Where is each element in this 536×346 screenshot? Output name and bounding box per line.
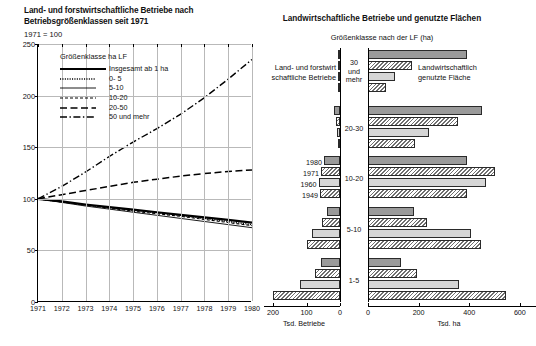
x-axis-tick-mark (181, 44, 182, 47)
x-axis-tick-label: 1977 (173, 304, 189, 313)
right-axis-tick-label: 600 (514, 308, 526, 317)
year-label-1980: 1980 (288, 157, 322, 166)
pyramid-plot-area: 30undmehr20-3010-2019801971196019495-101… (258, 44, 510, 314)
bar-right-1960 (368, 178, 486, 187)
year-label-1960: 1960 (288, 179, 317, 188)
bar-right-1960 (368, 128, 429, 137)
bar-left-1960 (319, 178, 340, 187)
bar-right-1960 (368, 280, 459, 289)
bar-left-1980 (321, 258, 340, 267)
x-axis-tick-label: 1979 (220, 304, 236, 313)
gridline-vertical (228, 44, 229, 301)
left-chart-title: Land- und forstwirtschaftliche Betriebe … (24, 6, 250, 27)
right-axis-tick-mark (419, 303, 420, 306)
legend-key-long-dash-icon (60, 103, 106, 112)
pyramid-group-10-20: 10-201980197119601949 (258, 156, 510, 200)
x-axis-tick-mark (38, 44, 39, 47)
line-chart-legend: Größenklasse ha LF Insgesamt ab 1 ha0- 5… (60, 52, 180, 122)
pyramid-category-label: 30undmehr (345, 59, 363, 85)
right-axis-tick-mark (469, 303, 470, 306)
left-axis-tick-mark (340, 303, 341, 306)
y-axis-tick-mark (35, 147, 38, 148)
bar-right-1980 (368, 106, 482, 115)
bar-right-1960 (368, 72, 395, 81)
legend-label: 50 und mehr (109, 112, 149, 121)
bar-left-1971 (315, 269, 340, 278)
y-axis-tick-label: 100 (23, 194, 35, 203)
legend-item-1: Insgesamt ab 1 ha (60, 64, 180, 74)
bar-right-1971 (368, 61, 412, 70)
pyramid-category-label: 20-30 (344, 124, 364, 133)
x-axis-tick-mark (109, 44, 110, 47)
right-axis-tick-label: 400 (463, 308, 475, 317)
gridline-vertical (252, 44, 253, 301)
bar-right-1971 (368, 269, 417, 278)
legend-label: 0- 5 (109, 74, 121, 83)
bar-right-1971 (368, 167, 495, 176)
legend-label: 20-50 (109, 103, 127, 112)
right-axis-tick-mark (368, 303, 369, 306)
left-axis-tick-label: 200 (267, 308, 279, 317)
bar-right-1949 (368, 189, 467, 198)
x-axis-tick-label: 1974 (101, 304, 117, 313)
left-axis-line (264, 306, 340, 307)
gridline-vertical (204, 44, 205, 301)
bar-right-1949 (368, 291, 506, 300)
line-series-5 (38, 170, 252, 199)
legend-label: 5-10 (109, 83, 123, 92)
zero-axis-left (340, 48, 341, 302)
legend-title: Größenklasse ha LF (60, 52, 180, 61)
legend-label: 10-20 (109, 93, 127, 102)
right-axis-tick-mark (520, 303, 521, 306)
y-axis-tick-mark (35, 302, 38, 303)
bar-left-1971 (322, 218, 340, 227)
y-axis-tick-label: 150 (23, 143, 35, 152)
bar-left-1949 (273, 291, 340, 300)
pyramid-chart-panel: Landwirtschaftliche Betriebe und genutzt… (258, 0, 510, 346)
legend-key-short-dash-icon (60, 93, 106, 102)
x-axis-tick-mark (228, 44, 229, 47)
line-series-4 (38, 199, 252, 226)
x-axis-tick-mark (252, 44, 253, 47)
bar-right-1971 (368, 117, 458, 126)
left-axis-tick-mark (307, 303, 308, 306)
right-axis-tick-label: 0 (366, 308, 370, 317)
pyramid-group-30-und-mehr: 30undmehr (258, 50, 510, 94)
left-chart-index-note: 1971 = 100 (24, 30, 62, 39)
legend-key-dotted-icon (60, 74, 106, 83)
gridline-vertical (181, 44, 182, 301)
x-axis-tick-mark (204, 44, 205, 47)
legend-rows: Insgesamt ab 1 ha0- 55-1010-2020-5050 un… (60, 64, 180, 122)
bar-right-1980 (368, 258, 401, 267)
x-axis-tick-mark (157, 44, 158, 47)
gridline-horizontal (38, 199, 251, 200)
x-axis-tick-label: 1973 (78, 304, 94, 313)
pyramid-category-label: 5-10 (346, 225, 362, 234)
year-label-1971: 1971 (288, 168, 319, 177)
bar-right-1949 (368, 83, 386, 92)
x-axis-tick-label: 1978 (196, 304, 212, 313)
legend-key-thin-solid-icon (60, 83, 106, 92)
legend-key-dash-dot-icon (60, 112, 106, 121)
left-axis-tick-label: 100 (301, 308, 313, 317)
y-axis-tick-label: 250 (23, 40, 35, 49)
bar-left-1949 (307, 240, 340, 249)
right-axis-tick-label: 200 (413, 308, 425, 317)
legend-item-3: 5-10 (60, 83, 180, 93)
bar-left-1980 (324, 156, 340, 165)
bar-left-1980 (327, 207, 340, 216)
gridline-horizontal (38, 44, 251, 45)
bar-left-1960 (300, 280, 340, 289)
zero-axis-right (368, 48, 369, 302)
left-axis-tick-label: 0 (338, 308, 342, 317)
y-axis-tick-label: 200 (23, 91, 35, 100)
legend-item-6: 50 und mehr (60, 112, 180, 122)
bar-left-1949 (320, 189, 340, 198)
line-chart-panel: Land- und forstwirtschaftliche Betriebe … (0, 0, 258, 346)
pyramid-group-20-30: 20-30 (258, 106, 510, 150)
y-axis-tick-label: 50 (27, 246, 35, 255)
legend-item-2: 0- 5 (60, 74, 180, 84)
legend-key-thick-solid-icon (60, 64, 106, 73)
bar-right-1949 (368, 240, 481, 249)
gridline-horizontal (38, 147, 251, 148)
